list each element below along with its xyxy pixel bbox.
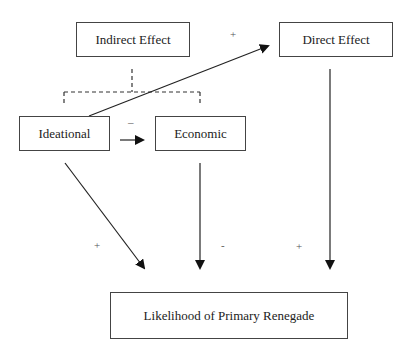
node-label: Direct Effect	[302, 32, 369, 48]
node-label: Likelihood of Primary Renegade	[144, 308, 315, 324]
arrow-ideational-to-outcome	[65, 163, 144, 268]
sign-ideational-outcome: +	[94, 239, 100, 251]
node-indirect-effect: Indirect Effect	[76, 22, 190, 57]
sign-ideational-direct: +	[230, 28, 236, 40]
node-outcome: Likelihood of Primary Renegade	[110, 292, 348, 339]
node-label: Economic	[174, 126, 227, 142]
sign-economic-outcome: -	[221, 239, 225, 251]
node-ideational: Ideational	[19, 116, 110, 151]
node-label: Ideational	[39, 126, 91, 142]
node-label: Indirect Effect	[95, 32, 170, 48]
sign-ideational-economic: –	[128, 116, 134, 128]
node-economic: Economic	[155, 116, 246, 151]
sign-direct-outcome: +	[296, 240, 302, 252]
node-direct-effect: Direct Effect	[279, 22, 393, 57]
indirect-effect-bracket	[64, 69, 200, 103]
